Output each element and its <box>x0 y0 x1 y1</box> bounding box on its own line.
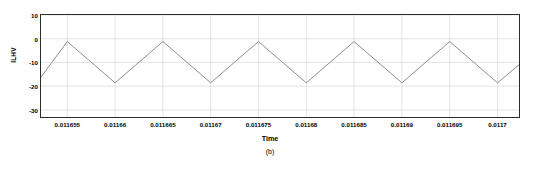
figure-panel: ILHV 100-10-20-30 0.0116550.011660.01166… <box>0 0 540 169</box>
x-tick-label: 0.011655 <box>55 121 80 129</box>
figure-caption: (b) <box>0 148 540 155</box>
x-tick-label: 0.01167 <box>200 121 222 129</box>
y-tick-label: -30 <box>14 106 38 113</box>
x-tick-label: 0.011675 <box>246 121 271 129</box>
x-tick-label: 0.01169 <box>391 121 413 129</box>
plot-area <box>40 14 520 118</box>
waveform-svg <box>41 15 519 117</box>
x-axis-tick-labels: 0.0116550.011660.0116650.011670.0116750.… <box>40 121 520 133</box>
x-tick-label: 0.011695 <box>437 121 462 129</box>
x-axis-label: Time <box>0 134 540 143</box>
x-tick-label: 0.011685 <box>341 121 366 129</box>
grid-lines <box>41 15 519 117</box>
x-tick-label: 0.01166 <box>104 121 126 129</box>
x-tick-label: 0.0117 <box>488 121 507 129</box>
y-tick-label: 0 <box>14 35 38 42</box>
y-axis-tick-labels: 100-10-20-30 <box>14 8 38 122</box>
y-tick-label: 10 <box>14 12 38 19</box>
x-tick-label: 0.011665 <box>150 121 175 129</box>
y-tick-label: -10 <box>14 59 38 66</box>
y-tick-label: -20 <box>14 83 38 90</box>
x-tick-label: 0.01168 <box>295 121 317 129</box>
